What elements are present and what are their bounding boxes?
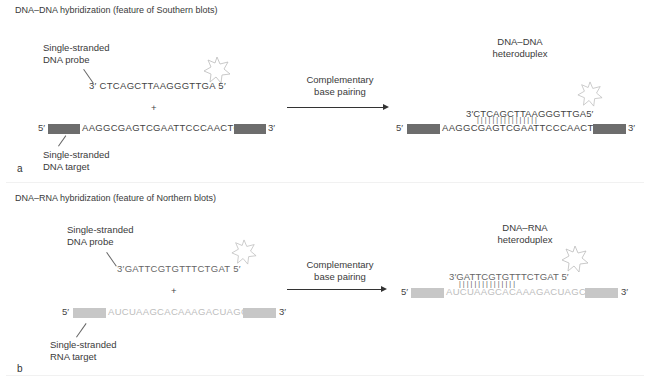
target-sequence: AAGGCGAGTCGAATTCCCAACTGAG [82,122,256,133]
panel-a-title: DNA–DNA hybridization (feature of Southe… [15,5,218,15]
duplex-3prime: 3′ [628,122,635,133]
target-sequence: AUCUAAGCACAAAGACUAGCUG [108,306,263,317]
plus-sign: + [171,285,177,296]
probe-leader-line [106,252,117,266]
reaction-arrow-line [287,107,385,108]
label-star-icon [577,81,603,107]
target-flank-right [243,308,276,318]
duplex-flank-left [411,288,444,298]
panel-b-title: DNA–RNA hybridization (feature of Northe… [15,193,216,203]
probe-label: Single-stranded DNA probe [43,42,110,66]
target-leader-line [76,323,87,337]
target-flank-left [73,308,106,318]
target-label: Single-stranded RNA target [50,339,117,363]
panel-a-letter: a [17,163,23,174]
duplex-flank-right [593,124,626,134]
target-3prime: 3′ [279,306,286,317]
target-5prime: 5′ [62,306,69,317]
product-label: DNA–RNA heteroduplex [490,222,560,246]
arrow-head-icon [383,104,389,110]
target-5prime: 5′ [38,122,45,133]
bottom-divider [6,375,644,376]
probe-sequence: 3′GATTCGTGTTTCTGAT 5′ [117,263,241,274]
product-label: DNA–DNA heteroduplex [480,36,560,60]
panel-divider [6,182,644,183]
duplex-5prime: 5′ [401,286,408,297]
duplex-3prime: 3′ [621,286,628,297]
duplex-target-sequence: AUCUAAGCACAAAGACUAGCUG [446,286,601,297]
reaction-arrow-line [287,289,383,290]
target-flank-right [234,124,266,134]
target-flank-left [48,124,80,134]
target-label: Single-stranded DNA target [43,149,110,173]
duplex-flank-left [407,124,440,134]
probe-label: Single-stranded DNA probe [67,224,134,248]
target-leader-line [58,135,66,146]
duplex-target-sequence: AAGGCGAGTCGAATTCCCAACTGAG [442,122,616,133]
target-3prime: 3′ [268,122,275,133]
plus-sign: + [151,102,157,113]
panel-b-letter: b [17,363,23,374]
arrow-label: Complementary base pairing [292,259,388,283]
duplex-5prime: 5′ [396,122,403,133]
label-star-icon [561,245,589,273]
arrow-label: Complementary base pairing [292,74,388,98]
label-star-icon [203,56,231,84]
arrow-head-icon [381,286,387,292]
label-star-icon [231,239,257,265]
duplex-flank-right [585,288,618,298]
